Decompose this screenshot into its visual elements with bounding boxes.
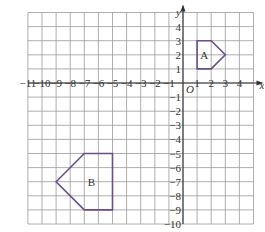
x-tick-label: −1 (163, 77, 175, 89)
x-tick-label: −3 (135, 77, 147, 89)
shape-label-b: B (88, 176, 95, 188)
x-tick-label: 3 (223, 77, 229, 89)
y-tick-label: −1 (169, 91, 181, 103)
origin-label: O (186, 83, 194, 95)
y-tick-label: −9 (169, 204, 181, 216)
y-tick-label: 1 (176, 63, 182, 75)
y-tick-label: −6 (169, 162, 181, 174)
x-tick-label: 2 (208, 77, 214, 89)
y-tick-label: −2 (169, 105, 181, 117)
y-axis-arrow-icon (181, 5, 186, 12)
y-tick-label: 2 (176, 49, 182, 61)
shape-label-a: A (200, 49, 208, 61)
x-tick-label: −8 (64, 77, 76, 89)
coordinate-grid-diagram: −11−10−9−8−7−6−5−4−3−2−11234 4321−1−2−3−… (0, 0, 264, 232)
grid-lines (28, 13, 254, 225)
y-tick-label: −10 (164, 218, 182, 230)
x-tick-label: 1 (194, 77, 200, 89)
y-tick-label: 3 (176, 35, 182, 47)
x-tick-label: −10 (33, 77, 51, 89)
y-tick-label: −7 (169, 176, 181, 188)
y-tick-label: 4 (176, 21, 182, 33)
x-axis-tick-labels: −11−10−9−8−7−6−5−4−3−2−11234 (20, 77, 243, 89)
x-tick-label: −7 (78, 77, 90, 89)
x-tick-label: −9 (50, 77, 62, 89)
y-tick-label: −3 (169, 119, 181, 131)
y-tick-label: −8 (169, 190, 181, 202)
x-tick-label: −6 (93, 77, 105, 89)
x-tick-label: 4 (237, 77, 243, 89)
axes (28, 5, 264, 225)
y-tick-label: −4 (169, 133, 181, 145)
x-axis-label: x (259, 79, 265, 91)
y-axis-label: y (175, 6, 181, 18)
x-tick-label: −5 (107, 77, 119, 89)
x-tick-label: −2 (149, 77, 161, 89)
y-tick-label: −5 (169, 148, 181, 160)
x-tick-label: −4 (121, 77, 133, 89)
